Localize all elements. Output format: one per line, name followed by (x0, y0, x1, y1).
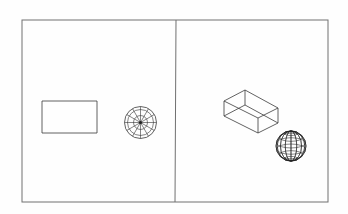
viewport-divider (175, 20, 176, 202)
viewport-plan-view (42, 101, 157, 139)
box-plan-rectangle (42, 101, 97, 133)
box-isometric-wireframe (224, 90, 278, 133)
viewport-isometric-view (224, 90, 306, 161)
sphere-isometric-wireframe (276, 131, 306, 161)
cad-drawing (0, 0, 348, 214)
sphere-plan-view (125, 107, 157, 139)
diagram-canvas (0, 0, 348, 214)
